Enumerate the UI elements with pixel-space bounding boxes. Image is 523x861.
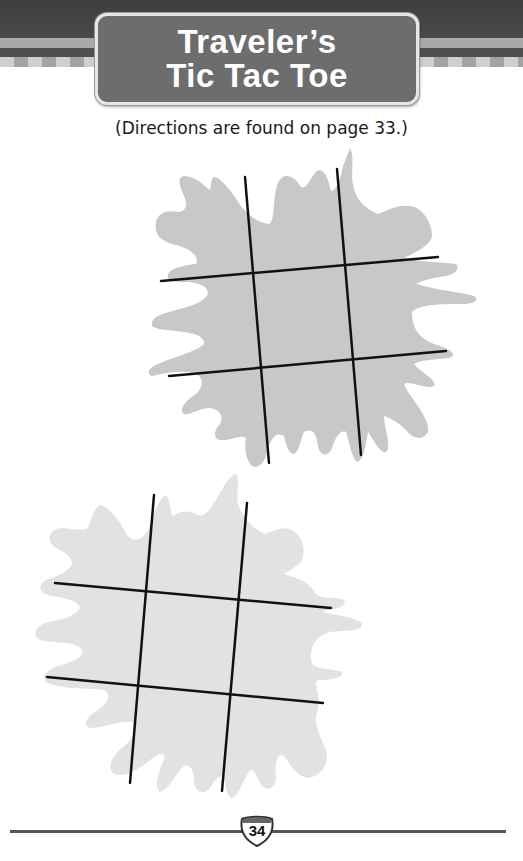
board-1[interactable] [149,148,477,467]
board-1-splat [149,148,477,467]
board-2-splat [35,474,362,798]
tic-tac-toe-boards [0,0,523,861]
page-number: 34 [239,822,275,839]
board-2[interactable] [35,474,362,798]
